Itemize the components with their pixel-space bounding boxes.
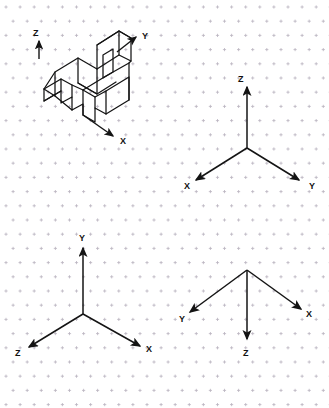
- figure-1-axis-label-x: X: [120, 137, 126, 146]
- figure-3-axis-arrows: [29, 248, 140, 347]
- figure-2-axis-label-y: Y: [309, 182, 315, 191]
- figure-1-axis-arrows: [39, 37, 136, 136]
- figure-1-axis-label-y: Y: [142, 32, 148, 41]
- figure-4-axis-arrows: [190, 270, 301, 339]
- figure-2-axis-arrows: [196, 87, 299, 180]
- figure-4-axis-label-x: X: [306, 310, 312, 319]
- figure-2-axis-label-x: X: [184, 182, 190, 191]
- figure-3-axis-label-x: X: [146, 345, 152, 354]
- worksheet-sheet: Z Y X Z X Y Y Z X Y X Z: [0, 0, 329, 408]
- figure-4-axis-x-arrow: [247, 270, 301, 309]
- figure-3-axis-label-z: Z: [15, 349, 21, 358]
- figure-1-axis-label-z: Z: [33, 29, 39, 38]
- figure-1-object: [44, 31, 131, 122]
- figure-4-axis-label-y: Y: [179, 315, 185, 324]
- figure-4-axis-label-z: Z: [243, 349, 249, 358]
- figure-1-axis-y-arrow: [117, 37, 136, 52]
- figure-3-axis-label-y: Y: [79, 234, 85, 243]
- figure-4-axis-y-arrow: [190, 270, 247, 312]
- figure-2-axis-label-z: Z: [238, 75, 244, 84]
- figure-1-axis-x-arrow: [83, 115, 113, 136]
- figure-2-axis-y-arrow: [247, 148, 299, 180]
- figure-2-axis-x-arrow: [196, 148, 247, 180]
- figure-3-axis-x-arrow: [83, 314, 140, 346]
- figure-3-axis-z-arrow: [29, 314, 83, 347]
- drawing-linework: [0, 0, 329, 408]
